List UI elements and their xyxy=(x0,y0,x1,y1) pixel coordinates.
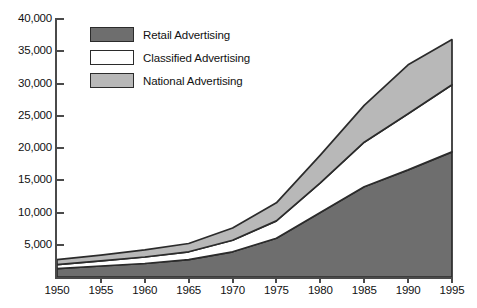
y-tick-label: 5,000 xyxy=(0,239,52,251)
y-tick-label-text: 30,000 xyxy=(2,78,52,90)
x-tick xyxy=(232,277,234,283)
legend-swatch-retail xyxy=(90,27,134,42)
x-axis-line xyxy=(55,277,453,279)
y-tick-label: 10,000 xyxy=(0,207,52,219)
x-tick-label: 1965 xyxy=(166,284,212,296)
y-tick xyxy=(57,83,64,85)
y-tick-label: 25,000 xyxy=(0,110,52,122)
y-tick xyxy=(57,147,64,149)
y-tick-label-text: 25,000 xyxy=(2,110,52,122)
legend-label-classified: Classified Advertising xyxy=(143,52,250,64)
x-tick-label: 1955 xyxy=(78,284,124,296)
legend-swatch-classified xyxy=(90,50,134,65)
y-tick xyxy=(57,50,64,52)
x-tick xyxy=(319,277,321,283)
x-tick-label: 1990 xyxy=(385,284,431,296)
y-tick-label: 35,000 xyxy=(0,45,52,57)
y-tick-label: 30,000 xyxy=(0,78,52,90)
x-tick xyxy=(100,277,102,283)
x-tick xyxy=(363,277,365,283)
x-tick-label: 1960 xyxy=(122,284,168,296)
legend-swatch-national xyxy=(90,73,134,88)
y-tick-label: 15,000 xyxy=(0,174,52,186)
chart-legend: Retail Advertising Classified Advertisin… xyxy=(90,24,250,93)
y-tick-label: 20,000 xyxy=(0,142,52,154)
y-tick-label: 40,000 xyxy=(0,13,52,25)
y-tick-label-text: 10,000 xyxy=(2,207,52,219)
legend-item-retail: Retail Advertising xyxy=(90,24,250,45)
legend-item-classified: Classified Advertising xyxy=(90,47,250,68)
y-tick-label-text: 40,000 xyxy=(2,13,52,25)
x-tick xyxy=(407,277,409,283)
y-tick xyxy=(57,244,64,246)
x-tick xyxy=(451,277,453,283)
advertising-revenue-area-chart: 5,00010,00015,00020,00025,00030,00035,00… xyxy=(0,0,477,308)
x-tick-label: 1980 xyxy=(297,284,343,296)
x-tick-label: 1950 xyxy=(34,284,80,296)
y-tick-label-text: 5,000 xyxy=(2,239,52,251)
y-tick-label-text: 15,000 xyxy=(2,174,52,186)
x-tick-label: 1995 xyxy=(429,284,475,296)
legend-label-national: National Advertising xyxy=(143,75,243,87)
x-tick xyxy=(275,277,277,283)
y-tick xyxy=(57,115,64,117)
x-tick xyxy=(144,277,146,283)
x-tick-label: 1970 xyxy=(210,284,256,296)
y-tick-label-text: 35,000 xyxy=(2,45,52,57)
y-tick xyxy=(57,18,64,20)
y-tick xyxy=(57,179,64,181)
x-tick xyxy=(188,277,190,283)
y-tick xyxy=(57,212,64,214)
legend-label-retail: Retail Advertising xyxy=(143,29,230,41)
x-tick-label: 1975 xyxy=(253,284,299,296)
legend-item-national: National Advertising xyxy=(90,70,250,91)
x-tick-label: 1985 xyxy=(341,284,387,296)
y-tick-label-text: 20,000 xyxy=(2,142,52,154)
